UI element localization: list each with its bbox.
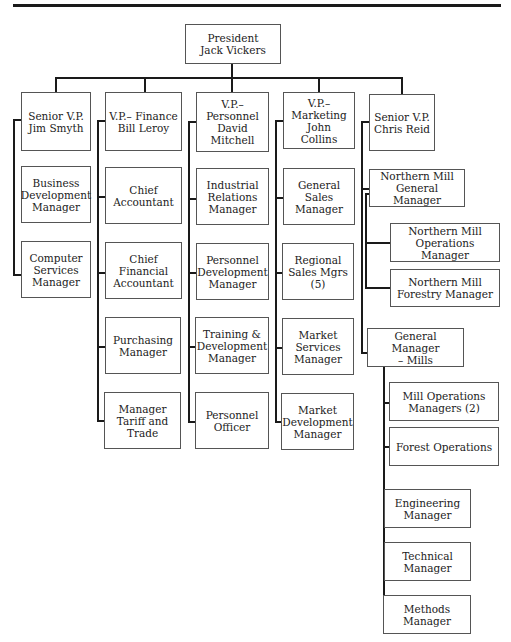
connector bbox=[401, 77, 403, 94]
connector bbox=[97, 346, 99, 422]
connector bbox=[365, 242, 391, 244]
box-forest-operations: Forest Operations bbox=[389, 427, 499, 466]
connector bbox=[144, 77, 146, 92]
connector bbox=[318, 77, 320, 92]
connector bbox=[361, 121, 363, 354]
connector bbox=[365, 287, 391, 289]
box-market-services: Market Services Manager bbox=[282, 318, 354, 375]
box-tariff-trade: Manager Tariff and Trade bbox=[104, 392, 181, 449]
box-president: President Jack Vickers bbox=[185, 24, 281, 64]
box-northern-mill-gm: Northern Mill General Manager bbox=[369, 169, 465, 207]
box-david-mitchell: V.P.– Personnel David Mitchell bbox=[196, 92, 269, 152]
box-training-development: Training & Development Manager bbox=[195, 317, 269, 374]
connector bbox=[361, 121, 369, 123]
box-business-development: Business Development Manager bbox=[21, 166, 91, 223]
connector bbox=[97, 272, 105, 274]
connector bbox=[365, 193, 367, 288]
box-market-development: Market Development Manager bbox=[281, 393, 354, 450]
box-northern-mill-ops: Northern Mill Operations Manager bbox=[390, 223, 500, 262]
box-regional-sales: Regional Sales Mgrs (5) bbox=[282, 243, 354, 300]
connector bbox=[188, 121, 196, 123]
connector bbox=[231, 77, 233, 92]
box-computer-services: Computer Services Manager bbox=[21, 241, 91, 298]
connector bbox=[13, 119, 15, 275]
box-industrial-relations: Industrial Relations Manager bbox=[196, 168, 269, 225]
box-general-sales: General Sales Manager bbox=[283, 168, 355, 225]
box-personnel-officer: Personnel Officer bbox=[195, 392, 269, 449]
box-chief-accountant: Chief Accountant bbox=[105, 167, 182, 224]
connector bbox=[13, 119, 21, 121]
connector bbox=[55, 77, 402, 79]
connector bbox=[13, 274, 21, 276]
box-purchasing-manager: Purchasing Manager bbox=[105, 317, 181, 374]
box-chris-reid: Senior V.P. Chris Reid bbox=[369, 94, 435, 151]
box-bill-leroy: V.P.– Finance Bill Leroy bbox=[105, 92, 182, 151]
connector bbox=[188, 272, 196, 274]
box-mill-operations: Mill Operations Managers (2) bbox=[389, 382, 499, 421]
box-northern-mill-forestry: Northern Mill Forestry Manager bbox=[390, 269, 500, 307]
connector bbox=[55, 77, 57, 92]
connector bbox=[97, 196, 105, 198]
connector bbox=[188, 198, 196, 200]
box-methods-manager: Methods Manager bbox=[383, 595, 471, 634]
connector bbox=[275, 197, 283, 199]
connector bbox=[97, 120, 105, 122]
connector bbox=[275, 120, 283, 122]
box-technical-manager: Technical Manager bbox=[384, 542, 471, 581]
box-chief-financial-accountant: Chief Financial Accountant bbox=[105, 242, 182, 299]
connector bbox=[361, 188, 369, 190]
box-engineering-manager: Engineering Manager bbox=[384, 489, 471, 528]
box-personnel-development: Personnel Development Manager bbox=[196, 243, 269, 300]
box-jim-smyth: Senior V.P. Jim Smyth bbox=[21, 92, 91, 151]
box-gm-mills: General Manager – Mills bbox=[367, 328, 464, 367]
top-rule bbox=[13, 4, 501, 7]
box-john-collins: V.P.– Marketing John Collins bbox=[283, 92, 355, 149]
